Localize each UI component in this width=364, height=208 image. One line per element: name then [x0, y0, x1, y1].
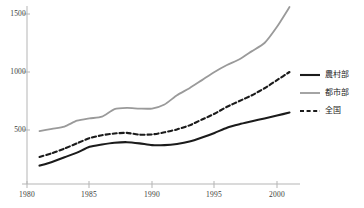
legend-line-solid-gray-icon: [300, 89, 320, 97]
legend-item-rural[interactable]: 農村部: [300, 66, 364, 84]
series-line-urban: [40, 7, 290, 131]
chart-legend: 農村部 都市部 全国: [300, 66, 364, 120]
x-tick-label-1990: 1990: [137, 190, 167, 199]
legend-line-solid-black-icon: [300, 71, 320, 79]
y-tick-label-1500: 1500: [0, 9, 26, 18]
y-tick-label-500: 500: [0, 125, 26, 134]
x-tick-label-2000: 2000: [262, 190, 292, 199]
data-series-group: [40, 7, 290, 166]
legend-label-urban: 都市部: [325, 89, 349, 97]
legend-item-national[interactable]: 全国: [300, 102, 364, 120]
line-chart: 1500 1000 500 1980 1985 1990 1995 2000 農…: [0, 0, 364, 208]
y-tick-label-1000: 1000: [0, 67, 26, 76]
x-tick-label-1985: 1985: [74, 190, 104, 199]
legend-label-rural: 農村部: [325, 71, 349, 79]
legend-item-urban[interactable]: 都市部: [300, 84, 364, 102]
x-tick-label-1995: 1995: [199, 190, 229, 199]
x-tick-label-1980: 1980: [12, 190, 42, 199]
legend-line-dashed-black-icon: [300, 107, 320, 115]
legend-label-national: 全国: [325, 107, 341, 115]
